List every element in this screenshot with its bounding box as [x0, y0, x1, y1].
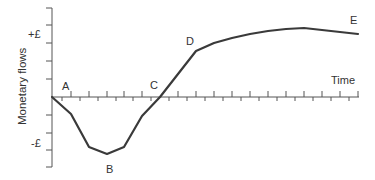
y-axis-label: Monetary flows — [16, 47, 28, 125]
point-label-d: D — [186, 35, 194, 47]
point-label-b: B — [106, 163, 113, 175]
monetary-flow-curve — [52, 28, 358, 154]
point-label-e: E — [350, 14, 357, 26]
point-label-c: C — [150, 79, 158, 91]
monetary-flows-chart: Monetary flows +£ -£ Time A B C D E — [0, 0, 375, 180]
y-axis — [46, 8, 52, 167]
y-tick-minus: -£ — [31, 137, 41, 149]
x-axis — [52, 91, 359, 101]
x-axis-label: Time — [331, 74, 355, 86]
point-label-a: A — [62, 80, 70, 92]
y-tick-plus: +£ — [28, 28, 41, 40]
